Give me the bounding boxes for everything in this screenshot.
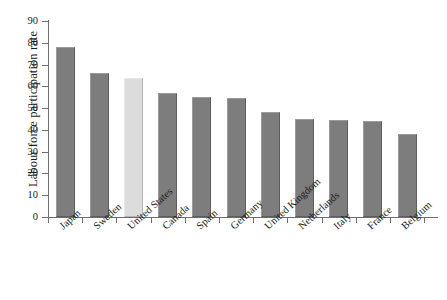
bar-spain: [192, 97, 211, 217]
bar-belgium: [398, 134, 417, 217]
x-tick-mark: [151, 218, 152, 223]
plot-area: [48, 21, 438, 217]
y-tick-label: 90: [14, 16, 38, 27]
x-tick-mark: [390, 218, 391, 223]
x-tick-mark: [185, 218, 186, 223]
bar-sweden: [90, 73, 109, 217]
bar-germany: [227, 98, 246, 217]
x-tick-mark: [116, 218, 117, 223]
y-tick-label: 60: [14, 81, 38, 92]
y-tick-label: 10: [14, 190, 38, 201]
bar-united-states: [124, 78, 143, 217]
bar-united-kingdom: [261, 112, 280, 217]
y-tick-label: 80: [14, 38, 38, 49]
bar-japan: [56, 47, 75, 217]
x-tick-mark: [322, 218, 323, 223]
y-tick-label: 70: [14, 60, 38, 71]
x-tick-mark: [287, 218, 288, 223]
y-tick-label: 40: [14, 125, 38, 136]
x-tick-mark: [356, 218, 357, 223]
x-tick-mark: [48, 218, 49, 223]
bar-chart: Labour force participation rate 01020304…: [0, 0, 447, 300]
x-tick-mark: [253, 218, 254, 223]
x-tick-mark: [219, 218, 220, 223]
y-tick-label: 30: [14, 147, 38, 158]
y-tick-label: 0: [14, 212, 38, 223]
x-tick-mark: [82, 218, 83, 223]
y-tick-label: 20: [14, 168, 38, 179]
bar-france: [363, 121, 382, 217]
y-tick-label: 50: [14, 103, 38, 114]
x-tick-mark: [424, 218, 425, 223]
